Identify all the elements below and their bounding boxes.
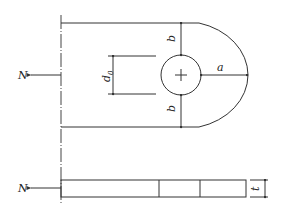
label-force-bottom: N: [17, 182, 28, 195]
label-t: t: [249, 186, 262, 191]
label-b-top: b: [165, 35, 178, 42]
plate-side: [61, 180, 246, 197]
side-view: [61, 180, 268, 197]
label-b-bottom: b: [165, 105, 178, 112]
plan-view: [61, 23, 248, 127]
eyebar-diagram: N N b b a d0 t: [0, 0, 285, 224]
label-force-top: N: [17, 69, 28, 82]
label-a: a: [217, 61, 224, 74]
label-d0: d0: [100, 70, 115, 82]
svg-text:d0: d0: [100, 70, 115, 82]
